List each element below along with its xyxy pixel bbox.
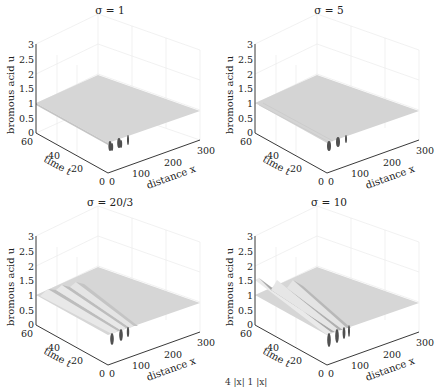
svg-text:2: 2 [247, 261, 253, 272]
svg-text:0.5: 0.5 [19, 113, 34, 124]
svg-text:2.5: 2.5 [238, 246, 253, 257]
svg-text:100: 100 [351, 168, 369, 179]
svg-text:0: 0 [328, 176, 334, 187]
svg-text:100: 100 [351, 360, 369, 371]
svg-text:1.5: 1.5 [238, 275, 253, 286]
z-tick-labels: 32.5 21.5 10.5 0 [238, 39, 253, 138]
svg-text:60: 60 [21, 136, 33, 147]
svg-text:0: 0 [318, 176, 324, 187]
z-tick-labels: 32.5 21.5 10.5 0 [238, 231, 253, 330]
z-tick-labels: 32.5 21.5 10.5 0 [19, 231, 34, 330]
svg-text:1: 1 [28, 98, 34, 109]
svg-text:1: 1 [247, 290, 253, 301]
z-axis-label: bromous acid u [5, 247, 16, 326]
panel-sigma-20-3: σ = 20/3 32.5 21.5 10.5 0 [0, 192, 220, 386]
panel-sigma-1: σ = 1 3 2.5 2 [0, 0, 220, 194]
svg-text:2.5: 2.5 [238, 54, 253, 65]
svg-text:2: 2 [247, 69, 253, 80]
svg-text:100: 100 [132, 360, 150, 371]
caption-fragment: 4 |x| 1 |x| [225, 377, 267, 387]
svg-text:2.5: 2.5 [19, 246, 34, 257]
svg-text:300: 300 [416, 337, 434, 348]
svg-text:1.5: 1.5 [19, 275, 34, 286]
svg-text:60: 60 [21, 328, 33, 339]
svg-text:200: 200 [383, 157, 401, 168]
svg-text:200: 200 [164, 157, 182, 168]
svg-text:0.5: 0.5 [238, 305, 253, 316]
svg-text:1: 1 [247, 98, 253, 109]
svg-text:3: 3 [247, 231, 253, 242]
svg-text:2: 2 [28, 261, 34, 272]
z-axis-label: bromous acid u [224, 247, 235, 326]
surface [255, 75, 419, 143]
panel-sigma-10: σ = 10 32.5 21.5 10.5 [219, 192, 439, 386]
svg-text:60: 60 [240, 328, 252, 339]
svg-text:2.5: 2.5 [19, 54, 34, 65]
svg-text:0.5: 0.5 [238, 113, 253, 124]
svg-text:1: 1 [28, 290, 34, 301]
svg-text:300: 300 [416, 145, 434, 156]
svg-text:0.5: 0.5 [19, 305, 34, 316]
svg-text:1.5: 1.5 [19, 83, 34, 94]
svg-text:0: 0 [318, 368, 324, 379]
surface-plot: 32.5 21.5 10.5 0 6040 200 0100 200300 br… [219, 192, 439, 386]
svg-text:0: 0 [99, 368, 105, 379]
svg-text:300: 300 [197, 337, 215, 348]
svg-text:60: 60 [240, 136, 252, 147]
svg-text:0: 0 [109, 176, 115, 187]
z-tick-labels: 3 2.5 2 1.5 1 0.5 0 [19, 39, 34, 138]
svg-text:2: 2 [28, 69, 34, 80]
surface-plot: 32.5 21.5 10.5 0 6040 200 0100 200300 br… [219, 0, 439, 194]
surface-plot: 3 2.5 2 1.5 1 0.5 0 60 40 20 0 0 100 200… [0, 0, 220, 194]
z-axis-label: bromous acid u [224, 55, 235, 134]
svg-text:200: 200 [383, 349, 401, 360]
panel-sigma-5: σ = 5 32.5 21.5 10.5 0 6040 200 [219, 0, 439, 194]
svg-text:300: 300 [197, 145, 215, 156]
svg-text:100: 100 [132, 168, 150, 179]
svg-text:0: 0 [99, 176, 105, 187]
svg-text:3: 3 [28, 39, 34, 50]
svg-text:3: 3 [247, 39, 253, 50]
surface-plot: 32.5 21.5 10.5 0 6040 200 0100 200300 br… [0, 192, 220, 386]
surface [36, 75, 200, 143]
svg-text:0: 0 [109, 368, 115, 379]
svg-text:200: 200 [164, 349, 182, 360]
svg-text:1.5: 1.5 [238, 83, 253, 94]
svg-text:3: 3 [28, 231, 34, 242]
svg-text:0: 0 [328, 368, 334, 379]
z-axis-label: bromous acid u [5, 55, 16, 134]
